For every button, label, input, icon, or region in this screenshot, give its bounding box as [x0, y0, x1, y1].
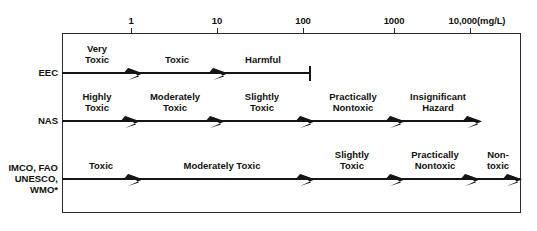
eec-segment-toxic: Toxic	[165, 55, 189, 66]
row-label-imco-line-3: WMO*	[0, 184, 58, 195]
nas-segment-practically-nontoxic: Practically Nontoxic	[329, 92, 377, 113]
eec-segment-harmful: Harmful	[245, 55, 281, 66]
imco-segment-slightly-toxic: Slightly Toxic	[335, 150, 369, 171]
toxicity-classification-diagram: 1 10 100 1000 10,000(mg/L) EEC Very Toxi…	[0, 0, 537, 231]
nas-band-line	[62, 120, 475, 122]
row-label-eec: EEC	[0, 67, 58, 78]
row-label-imco-line-2: UNESCO,	[0, 173, 58, 184]
axis-tick-label-1: 1	[128, 16, 133, 26]
row-label-nas-line-1: NAS	[0, 115, 58, 126]
nas-segment-highly-toxic: Highly Toxic	[82, 92, 111, 113]
axis-tick-label-1000: 1000	[384, 16, 405, 26]
row-label-nas: NAS	[0, 115, 58, 126]
imco-segment-moderately-toxic: Moderately Toxic	[184, 161, 261, 172]
axis-tick-label-10000-mgl: 10,000(mg/L)	[449, 16, 506, 26]
axis-tick-label-10: 10	[212, 16, 222, 26]
imco-segment-practically-nontoxic: Practically Nontoxic	[411, 150, 459, 171]
nas-segment-slightly-toxic: Slightly Toxic	[245, 92, 279, 113]
eec-band-line	[62, 72, 311, 74]
row-label-imco-line-1: IMCO, FAO	[0, 162, 58, 173]
eec-segment-very-toxic: Very Toxic	[85, 44, 109, 65]
imco-segment-toxic: Toxic	[89, 161, 113, 172]
diagram-frame	[62, 33, 521, 213]
eec-terminator-bar	[309, 66, 311, 81]
nas-segment-moderately-toxic: Moderately Toxic	[150, 92, 200, 113]
nas-segment-insignificant-hazard: Insignificant Hazard	[410, 92, 466, 113]
row-label-imco-fao-unesco-wmo: IMCO, FAO UNESCO, WMO*	[0, 162, 58, 195]
axis-tick-label-100: 100	[295, 16, 311, 26]
imco-band-line	[62, 178, 520, 180]
imco-segment-non-toxic: Non- toxic	[487, 150, 509, 171]
row-label-eec-line-1: EEC	[0, 67, 58, 78]
